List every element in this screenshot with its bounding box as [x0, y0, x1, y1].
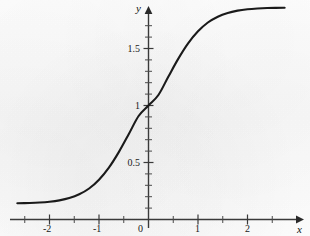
x-tick-label-neg1: -1 — [93, 224, 101, 234]
figure-container: -2 -1 0 1 2 0.5 1 1.5 x y — [0, 0, 310, 236]
x-tick-label-zero: 0 — [138, 224, 143, 234]
y-tick-label-1-5: 1.5 — [119, 44, 140, 54]
y-tick-label-1: 1 — [119, 101, 140, 111]
x-tick-label-2: 2 — [245, 224, 250, 234]
y-axis-arrowhead — [145, 6, 153, 14]
plot-area — [0, 0, 310, 236]
x-axis-label: x — [297, 224, 302, 235]
y-tick-label-0-5: 0.5 — [119, 158, 140, 168]
y-axis-label: y — [136, 3, 141, 14]
x-tick-label-neg2: -2 — [43, 224, 51, 234]
x-tick-label-1: 1 — [195, 224, 200, 234]
